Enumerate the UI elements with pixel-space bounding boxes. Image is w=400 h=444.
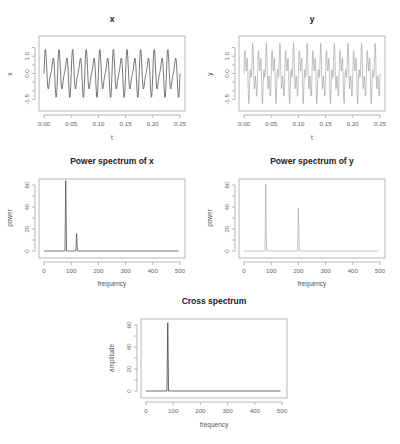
x-tick-label: 500 <box>277 407 288 414</box>
x-tick-label: 0.15 <box>320 120 333 127</box>
y-tick-label: 0 <box>23 249 30 253</box>
x-tick-label: 400 <box>250 407 261 414</box>
x-tick-label: 300 <box>222 407 233 414</box>
x-tick-label: 0.10 <box>292 120 305 127</box>
y-tick-label: 40 <box>125 343 132 350</box>
y-tick-label: 0 <box>223 249 230 253</box>
y-axis-label: power <box>206 208 214 227</box>
x-tick-label: 200 <box>293 267 304 274</box>
y-tick-label: 1.0 <box>223 51 230 60</box>
y-tick-label: 1.0 <box>23 51 30 60</box>
x-tick-label: 0.05 <box>265 120 278 127</box>
panel-x-timeseries: x 0.000.050.100.150.200.25 -1.50.01.0 t … <box>6 14 187 141</box>
x-tick-label: 0 <box>42 267 46 274</box>
y-axis-label: x <box>6 72 13 76</box>
x-axis-label: frequency <box>200 421 229 429</box>
x-tick-label: 0.20 <box>147 120 160 127</box>
panel-y-timeseries: y 0.000.050.100.150.200.25 -1.50.01.0 t … <box>206 14 387 141</box>
y-axis: -1.50.01.0 <box>223 48 235 105</box>
y-axis: 0204060 <box>23 181 35 253</box>
y-tick-label: 0.0 <box>23 69 30 78</box>
y-tick-label: -1.5 <box>23 94 30 105</box>
x-axis-label: frequency <box>298 280 327 288</box>
x-tick-label: 100 <box>66 267 77 274</box>
y-tick-label: 20 <box>223 225 230 232</box>
panel-title: y <box>310 14 315 24</box>
x-tick-label: 300 <box>320 267 331 274</box>
panel-power-spectrum-y: Power spectrum of y 0100200300400500 020… <box>206 156 386 288</box>
x-axis: 0.000.050.100.150.200.25 <box>238 115 387 127</box>
y-axis: -1.50.01.0 <box>23 48 35 105</box>
series-line <box>244 184 379 251</box>
x-tick-label: 0.05 <box>65 120 78 127</box>
y-axis-label: y <box>206 72 214 76</box>
series-line <box>244 43 380 103</box>
y-axis: 0204060 <box>125 321 137 393</box>
y-tick-label: 20 <box>23 225 30 232</box>
x-tick-label: 0.00 <box>238 120 251 127</box>
x-tick-label: 200 <box>93 267 104 274</box>
y-tick-label: 0.0 <box>223 69 230 78</box>
series-line <box>44 181 179 251</box>
x-axis: 0100200300400500 <box>242 262 385 274</box>
x-tick-label: 0.25 <box>374 120 387 127</box>
panel-power-spectrum-x: Power spectrum of x 0100200300400500 020… <box>6 156 186 288</box>
x-tick-label: 400 <box>348 267 359 274</box>
x-tick-label: 0.00 <box>38 120 51 127</box>
y-tick-label: 40 <box>223 203 230 210</box>
x-tick-label: 300 <box>120 267 131 274</box>
x-tick-label: 0.25 <box>174 120 187 127</box>
x-axis: 0.000.050.100.150.200.25 <box>38 115 187 127</box>
x-tick-label: 500 <box>175 267 186 274</box>
x-tick-label: 0.10 <box>92 120 105 127</box>
figure: x 0.000.050.100.150.200.25 -1.50.01.0 t … <box>0 0 400 444</box>
y-tick-label: 40 <box>23 203 30 210</box>
x-tick-label: 500 <box>375 267 386 274</box>
x-axis: 0100200300400500 <box>144 402 287 414</box>
x-tick-label: 400 <box>148 267 159 274</box>
x-axis: 0100200300400500 <box>42 262 185 274</box>
x-tick-label: 0.20 <box>347 120 360 127</box>
y-tick-label: 60 <box>125 321 132 328</box>
x-tick-label: 0 <box>144 407 148 414</box>
y-tick-label: 60 <box>223 181 230 188</box>
y-tick-label: 60 <box>23 181 30 188</box>
x-tick-label: 100 <box>168 407 179 414</box>
x-tick-label: 200 <box>195 407 206 414</box>
x-tick-label: 0 <box>242 267 246 274</box>
panel-cross-spectrum: Cross spectrum 0100200300400500 0204060 … <box>108 296 288 429</box>
plot-frame <box>39 179 185 258</box>
plot-frame <box>239 179 385 258</box>
panel-title: Power spectrum of x <box>70 156 154 166</box>
x-axis-label: frequency <box>98 280 127 288</box>
y-axis-label: power <box>6 208 14 227</box>
plot-frame <box>141 319 287 398</box>
series-line <box>44 50 180 98</box>
x-tick-label: 100 <box>266 267 277 274</box>
panel-title: x <box>110 14 115 24</box>
series-line <box>146 323 281 391</box>
panel-title: Cross spectrum <box>182 296 247 306</box>
x-tick-label: 0.15 <box>120 120 133 127</box>
x-axis-label: t <box>111 134 113 141</box>
x-axis-label: t <box>311 134 313 141</box>
y-axis: 0204060 <box>223 181 235 253</box>
y-tick-label: 0 <box>125 389 132 393</box>
y-tick-label: 20 <box>125 365 132 372</box>
y-axis-label: amplitude <box>108 344 116 373</box>
panel-title: Power spectrum of y <box>270 156 354 166</box>
y-tick-label: -1.5 <box>223 94 230 105</box>
